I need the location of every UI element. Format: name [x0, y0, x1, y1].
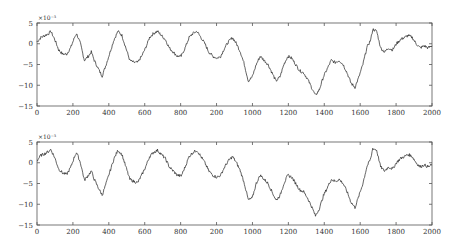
x-tick-label: 200 [210, 109, 223, 117]
x-tick-label: 400 [102, 109, 115, 117]
x-tick-label: 1000 [244, 109, 262, 117]
chart-canvas: 0200400600800200100012001400160018002000… [0, 0, 458, 249]
y-exponent-label: ×10⁻³ [38, 133, 57, 140]
y-tick-label: −15 [18, 222, 33, 230]
bottom-panel: 0200400600800200100012001400160018002000… [18, 133, 441, 236]
y-tick-label: −15 [18, 103, 33, 111]
y-tick-label: 0 [29, 159, 33, 167]
x-tick-label: 200 [66, 228, 79, 236]
x-tick-label: 1800 [387, 109, 405, 117]
x-tick-label: 2000 [423, 228, 441, 236]
x-tick-label: 400 [102, 228, 115, 236]
x-tick-label: 1600 [351, 109, 369, 117]
y-tick-label: −5 [23, 61, 33, 69]
x-tick-label: 800 [174, 109, 187, 117]
x-tick-label: 600 [138, 109, 151, 117]
signal-trace [37, 29, 432, 95]
x-tick-label: 200 [210, 228, 223, 236]
y-tick-label: 5 [29, 20, 33, 28]
y-tick-label: −10 [18, 82, 33, 90]
y-tick-label: 0 [29, 40, 33, 48]
x-tick-label: 1400 [315, 228, 333, 236]
y-tick-label: 5 [29, 139, 33, 147]
x-tick-label: 0 [35, 228, 39, 236]
x-tick-label: 1200 [279, 228, 297, 236]
y-tick-label: −10 [18, 201, 33, 209]
top-panel: 0200400600800200100012001400160018002000… [18, 14, 441, 117]
x-tick-label: 600 [138, 228, 151, 236]
y-tick-label: −5 [23, 180, 33, 188]
x-tick-label: 200 [66, 109, 79, 117]
x-tick-label: 0 [35, 109, 39, 117]
x-tick-label: 1200 [279, 109, 297, 117]
x-tick-label: 1800 [387, 228, 405, 236]
y-exponent-label: ×10⁻³ [38, 14, 57, 21]
signal-trace [37, 148, 432, 216]
x-tick-label: 1600 [351, 228, 369, 236]
x-tick-label: 2000 [423, 109, 441, 117]
x-tick-label: 800 [174, 228, 187, 236]
x-tick-label: 1400 [315, 109, 333, 117]
x-tick-label: 1000 [244, 228, 262, 236]
